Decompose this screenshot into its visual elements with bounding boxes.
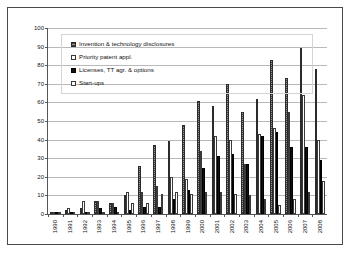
bar xyxy=(58,212,61,214)
x-tick-mark xyxy=(283,214,284,217)
bar xyxy=(102,212,105,214)
x-tick-label: 2008 xyxy=(317,220,323,233)
x-tick-label: 1990 xyxy=(52,220,58,233)
x-tick-label: 2000 xyxy=(199,220,205,233)
y-tick-label: 40 xyxy=(37,137,44,143)
legend-swatch-invention-icon xyxy=(71,42,76,47)
bar xyxy=(146,203,149,214)
legend-label: Licenses, TT agr. & options xyxy=(79,67,154,73)
x-tick-label: 1999 xyxy=(185,220,191,233)
x-tick-mark xyxy=(195,214,196,217)
x-tick-mark xyxy=(121,214,122,217)
bar-group: 2008 xyxy=(312,28,327,214)
bar xyxy=(161,194,164,214)
x-tick-label: 1997 xyxy=(155,220,161,233)
x-tick-mark xyxy=(136,214,137,217)
bar xyxy=(322,181,325,214)
legend-label: Priority patent appl. xyxy=(79,54,132,60)
y-tick-label: 10 xyxy=(37,192,44,198)
bar xyxy=(276,132,279,214)
y-tick-label: 20 xyxy=(37,174,44,180)
bar xyxy=(278,205,281,214)
y-tick-label: 0 xyxy=(41,211,44,217)
x-tick-mark xyxy=(254,214,255,217)
x-tick-mark xyxy=(107,214,108,217)
legend-swatch-patent-icon xyxy=(71,55,76,60)
y-tick-label: 100 xyxy=(34,25,44,31)
x-tick-mark xyxy=(48,214,49,217)
bar xyxy=(308,192,311,214)
y-tick-label: 90 xyxy=(37,44,44,50)
x-tick-mark xyxy=(224,214,225,217)
bar xyxy=(264,199,267,214)
x-tick-mark xyxy=(166,214,167,217)
bar xyxy=(190,194,193,214)
legend-swatch-startups-icon xyxy=(71,81,76,86)
y-tick-label: 80 xyxy=(37,62,44,68)
legend-label: Start-ups xyxy=(79,80,104,86)
x-tick-mark xyxy=(268,214,269,217)
x-tick-label: 2004 xyxy=(258,220,264,233)
x-tick-label: 1992 xyxy=(82,220,88,233)
x-tick-mark xyxy=(298,214,299,217)
legend-label: Invention & technology disclosures xyxy=(79,41,174,47)
x-tick-label: 1991 xyxy=(67,220,73,233)
chart-legend: Invention & technology disclosures Prior… xyxy=(61,34,313,94)
bar xyxy=(293,199,296,214)
legend-swatch-licenses-icon xyxy=(71,68,76,73)
x-tick-label: 2002 xyxy=(229,220,235,233)
x-tick-label: 2005 xyxy=(273,220,279,233)
x-tick-mark xyxy=(312,214,313,217)
x-tick-label: 2006 xyxy=(287,220,293,233)
x-tick-label: 1998 xyxy=(170,220,176,233)
legend-item: Priority patent appl. xyxy=(62,51,312,64)
x-tick-label: 1993 xyxy=(96,220,102,233)
x-tick-label: 1994 xyxy=(111,220,117,233)
bar xyxy=(234,194,237,214)
x-tick-mark xyxy=(180,214,181,217)
bar xyxy=(73,212,76,214)
x-tick-mark xyxy=(77,214,78,217)
x-tick-label: 1995 xyxy=(126,220,132,233)
x-tick-label: 1996 xyxy=(140,220,146,233)
bar xyxy=(131,203,134,214)
x-tick-mark xyxy=(239,214,240,217)
legend-item: Start-ups xyxy=(62,77,312,90)
y-tick-label: 60 xyxy=(37,99,44,105)
legend-item: Licenses, TT agr. & options xyxy=(62,64,312,77)
legend-item: Invention & technology disclosures xyxy=(62,38,312,51)
bar xyxy=(205,192,208,214)
bar xyxy=(249,195,252,214)
x-tick-mark xyxy=(151,214,152,217)
gridline xyxy=(48,214,327,215)
bar xyxy=(87,212,90,214)
x-tick-label: 2001 xyxy=(214,220,220,233)
y-tick-label: 30 xyxy=(37,155,44,161)
x-tick-label: 2007 xyxy=(302,220,308,233)
bar xyxy=(175,192,178,214)
x-tick-mark xyxy=(92,214,93,217)
x-tick-mark xyxy=(210,214,211,217)
bar xyxy=(220,192,223,214)
x-tick-mark xyxy=(63,214,64,217)
y-tick-label: 50 xyxy=(37,118,44,124)
y-tick-label: 70 xyxy=(37,81,44,87)
x-tick-label: 2003 xyxy=(243,220,249,233)
bar xyxy=(117,212,120,214)
chart-frame: 0102030405060708090100 19901991199219931… xyxy=(7,7,343,245)
